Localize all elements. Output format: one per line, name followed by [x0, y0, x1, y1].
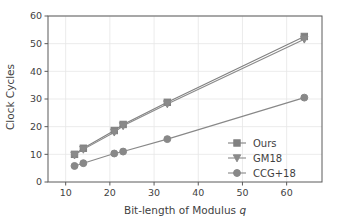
x-axis-label: Bit-length of Modulus q — [124, 204, 246, 216]
x-tick-label: 20 — [104, 187, 116, 198]
x-tick-label: 40 — [192, 187, 204, 198]
circle-marker-icon — [164, 136, 171, 143]
x-tick-label: 30 — [148, 187, 160, 198]
y-tick-label: 30 — [30, 93, 42, 104]
legend: OursGM18CCG+18 — [228, 138, 296, 179]
x-axis-label-variable: q — [239, 204, 246, 216]
circle-marker-icon — [120, 148, 127, 155]
y-tick-label: 40 — [30, 66, 42, 77]
circle-marker-icon — [301, 94, 308, 101]
y-tick-label: 0 — [36, 176, 42, 187]
circle-marker-icon — [80, 160, 87, 167]
y-tick-label: 60 — [30, 10, 42, 21]
x-tick-label: 50 — [236, 187, 248, 198]
circle-marker-icon — [234, 170, 241, 177]
chart-canvas: 1020304050600102030405060 OursGM18CCG+18… — [0, 0, 343, 219]
y-tick-label: 20 — [30, 121, 42, 132]
y-axis-label: Clock Cycles — [4, 64, 16, 130]
circle-marker-icon — [71, 162, 78, 169]
square-marker-icon — [234, 140, 240, 146]
clock-cycles-line-chart: 1020304050600102030405060 OursGM18CCG+18… — [0, 0, 343, 219]
circle-marker-icon — [111, 150, 118, 157]
x-tick-label: 60 — [281, 187, 293, 198]
legend-label-ours: Ours — [253, 138, 277, 149]
legend-label-gm18: GM18 — [253, 153, 282, 164]
y-tick-label: 10 — [30, 149, 42, 160]
data-series — [71, 33, 308, 169]
legend-label-ccg-18: CCG+18 — [253, 168, 296, 179]
y-tick-label: 50 — [30, 38, 42, 49]
x-tick-label: 10 — [60, 187, 72, 198]
